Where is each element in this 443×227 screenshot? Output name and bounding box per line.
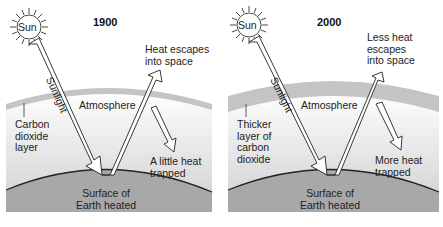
surface-label: Surface of Earth heated: [76, 188, 136, 211]
sun-label: Sun: [18, 21, 37, 33]
year-label: 2000: [317, 16, 341, 28]
atmosphere-label: Atmosphere: [79, 100, 136, 112]
co2-layer-label: Thicker layer of carbon dioxide: [237, 119, 271, 165]
surface-label: Surface of Earth heated: [300, 188, 360, 211]
co2-layer-label: Carbon dioxide layer: [15, 119, 49, 154]
year-label: 1900: [93, 16, 117, 28]
atmosphere-label: Atmosphere: [301, 100, 358, 112]
heat-trapped-label: A little heat trapped: [150, 156, 201, 179]
heat-trapped-label: More heat trapped: [375, 155, 422, 178]
heat-escapes-label: Less heat escapes into space: [367, 32, 415, 67]
sun-label: Sun: [238, 19, 257, 31]
heat-escapes-label: Heat escapes into space: [145, 44, 209, 67]
panel-1900: Sun 1900 Sunlight Atmosphere Heat escape…: [0, 0, 215, 227]
panel-2000: Sun 2000 Sunlight Atmosphere Less heat e…: [222, 0, 443, 227]
